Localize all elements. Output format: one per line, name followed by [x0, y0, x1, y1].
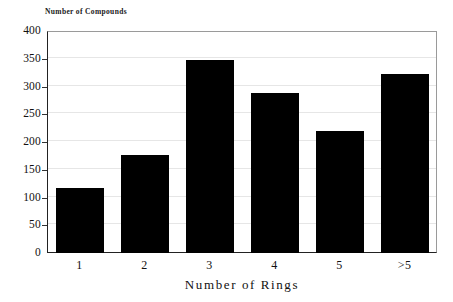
y-axis-tick-label: 100 [1, 192, 41, 204]
y-axis-tick-label: 250 [1, 108, 41, 120]
y-axis-tick-label: 150 [1, 164, 41, 176]
y-axis-tick [42, 87, 47, 88]
y-axis-tick [42, 142, 47, 143]
bar [121, 155, 169, 253]
x-axis-tick-label: 5 [307, 258, 372, 272]
y-axis-tick [42, 198, 47, 199]
x-axis-tick-label: 1 [47, 258, 112, 272]
bar-chart-figure: Number of Compounds 05010015020025030035… [0, 0, 453, 302]
y-axis: 050100150200250300350400 [0, 0, 41, 302]
y-axis-tick-label: 400 [1, 25, 41, 37]
y-axis-tick-label: 350 [1, 53, 41, 65]
y-axis-tick [42, 170, 47, 171]
y-axis-tick-label: 300 [1, 81, 41, 93]
x-axis-tick-label: 4 [242, 258, 307, 272]
y-axis-title: Number of Compounds [45, 7, 127, 16]
x-axis-title: Number of Rings [47, 277, 437, 293]
y-axis-tick [42, 225, 47, 226]
bar [381, 74, 429, 253]
y-axis-tick [42, 59, 47, 60]
y-axis-tick [42, 114, 47, 115]
y-axis-tick-label: 0 [1, 247, 41, 259]
x-axis-tick-label: >5 [372, 258, 437, 272]
x-axis: 12345>5 [47, 258, 437, 276]
bar [56, 188, 104, 253]
bar [316, 131, 364, 253]
x-axis-tick-label: 3 [177, 258, 242, 272]
y-axis-tick-label: 200 [1, 136, 41, 148]
bar [186, 60, 234, 253]
y-axis-tick-label: 50 [1, 219, 41, 231]
x-axis-tick-label: 2 [112, 258, 177, 272]
bars-group [47, 31, 437, 253]
bar [251, 93, 299, 253]
